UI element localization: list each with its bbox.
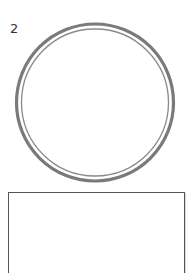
outer-ring: [17, 24, 174, 181]
answer-box[interactable]: [8, 192, 185, 273]
inner-ring: [22, 29, 169, 176]
